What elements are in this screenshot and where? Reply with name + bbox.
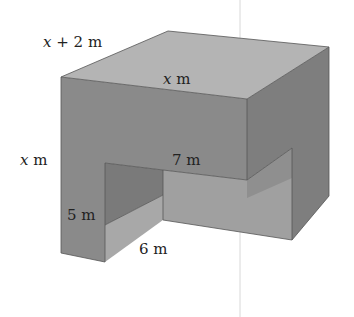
label-left-height: x m bbox=[20, 151, 47, 169]
label-notch-width: 7 m bbox=[172, 151, 201, 169]
label-top-back-edge: x + 2 m bbox=[43, 33, 102, 51]
label-notch-depth: 6 m bbox=[139, 240, 168, 258]
label-top-front-edge: x m bbox=[163, 70, 190, 88]
prism-diagram: x + 2 m x m x m 7 m 5 m 6 m bbox=[0, 0, 354, 317]
label-notch-height: 5 m bbox=[67, 206, 96, 224]
